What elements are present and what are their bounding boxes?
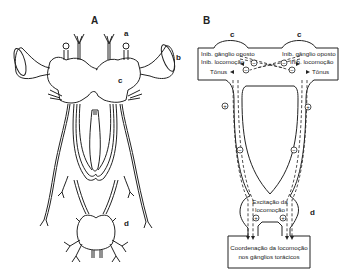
left-tonus-label: Tônus [210, 68, 227, 75]
label-c: c [118, 76, 123, 85]
label-d: d [124, 219, 129, 228]
right-ocellus [123, 43, 129, 49]
right-antennal-nerve [104, 34, 114, 60]
label-d-b: d [310, 208, 315, 217]
panel-a-drawing [12, 34, 178, 262]
excitation-line2: locomoção [255, 206, 285, 213]
figure: A a b c d B c c d [0, 0, 352, 277]
ganglion-d [77, 215, 115, 250]
svg-text:+: + [281, 215, 285, 221]
panel-a-label: A [91, 15, 98, 26]
left-outer-nerve [44, 104, 68, 220]
label-a: a [124, 29, 129, 38]
left-inhib-opposite-label: Inib. gânglio oposto [201, 50, 255, 57]
left-antennal-nerve [74, 34, 84, 60]
label-c-left: c [230, 30, 235, 39]
right-inhib-opposite-label: Inib. gânglio oposto [282, 50, 336, 57]
coordination-line1: Coordenação da locomoção [230, 244, 308, 251]
svg-text:−: − [252, 60, 256, 66]
svg-text:−: − [238, 147, 242, 153]
coordination-line2: nos gânglios torácicos [238, 253, 299, 260]
inner-cutout [242, 86, 298, 194]
left-inhib-locomotion-label: Inib. locomoção [201, 58, 245, 65]
right-lower-connective [103, 180, 118, 214]
bottom-notch [258, 222, 282, 236]
panel-b-label: B [203, 15, 210, 26]
right-optic-lobe [140, 46, 175, 79]
excitation-line1: Excitação da [252, 198, 288, 205]
svg-text:+: + [306, 104, 310, 110]
right-tonus-label: Tônus [312, 68, 329, 75]
label-b: b [176, 53, 181, 62]
svg-text:−: − [292, 147, 296, 153]
svg-text:+: + [254, 215, 258, 221]
label-c-right: c [297, 30, 302, 39]
svg-text:−: − [282, 60, 286, 66]
right-side-nerves [128, 90, 142, 100]
svg-text:−: − [244, 67, 248, 73]
right-outer-nerve [120, 104, 146, 222]
left-lower-connective [74, 180, 89, 214]
right-inhib-locomotion-label: Inib. locomoção [290, 58, 334, 65]
svg-text:−: − [290, 67, 294, 73]
stomatogastric-nerve [90, 110, 101, 171]
left-ocellus [63, 43, 69, 49]
svg-text:+: + [223, 103, 227, 109]
